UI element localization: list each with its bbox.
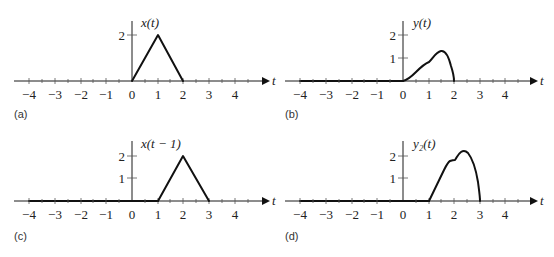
svg-text:3: 3 [477,207,484,222]
svg-text:−1: −1 [99,87,113,102]
svg-text:4: 4 [502,87,509,102]
t-axis-label: t [540,73,544,88]
panel-label: (d) [285,230,298,242]
y-tick-2: 2 [390,28,397,43]
svg-text:4: 4 [232,87,239,102]
svg-text:2: 2 [451,87,458,102]
arrow-icon [530,77,538,85]
svg-text:−3: −3 [319,87,333,102]
panel-label: (b) [285,108,298,120]
svg-text:2: 2 [180,207,187,222]
panel-label: (a) [14,108,27,120]
arrow-icon [262,77,270,85]
svg-text:4: 4 [232,207,239,222]
function-label: y(t) [411,15,431,30]
svg-text:3: 3 [206,207,213,222]
svg-text:0: 0 [400,207,407,222]
svg-text:0: 0 [400,87,407,102]
signal-x-shifted [158,156,209,201]
signal-y2 [429,151,480,201]
t-axis-label: t [272,193,276,208]
arrow-icon [530,197,538,205]
x-tick-labels: −4 −3 −2 −1 0 1 2 3 4 [293,207,509,222]
panel-b: t −4 −3 −2 −1 0 1 2 3 4 2 1 y(t [285,15,544,120]
svg-text:0: 0 [129,207,136,222]
svg-text:2: 2 [180,87,187,102]
panel-c: t −4 −3 −2 −1 0 1 2 3 4 2 1 x(t [14,136,276,242]
panel-d: t −4 −3 −2 −1 0 1 2 3 4 2 1 y₂( [285,136,544,242]
signal-y [403,51,454,81]
svg-text:3: 3 [477,87,484,102]
svg-text:1: 1 [426,207,433,222]
svg-text:−2: −2 [345,207,359,222]
figure-canvas: t −4 −3 −2 −1 0 1 2 3 4 2 x(t) (a) [0,0,554,257]
svg-text:2: 2 [451,207,458,222]
svg-text:−3: −3 [48,207,62,222]
svg-text:−4: −4 [293,87,307,102]
svg-text:−4: −4 [22,87,36,102]
t-axis-label: t [540,193,544,208]
svg-text:−2: −2 [345,87,359,102]
y-tick-2: 2 [390,149,397,164]
svg-text:0: 0 [129,87,136,102]
y-tick-1: 1 [390,171,397,186]
svg-text:1: 1 [155,207,162,222]
t-axis-label: t [272,73,276,88]
y-tick-1: 1 [390,51,397,66]
svg-text:1: 1 [155,87,162,102]
svg-text:−2: −2 [74,87,88,102]
svg-text:3: 3 [206,87,213,102]
arrow-icon [262,197,270,205]
svg-text:−1: −1 [370,87,384,102]
function-label: x(t) [140,15,159,30]
svg-text:−3: −3 [48,87,62,102]
svg-text:−4: −4 [22,207,36,222]
x-tick-labels: −4 −3 −2 −1 0 1 2 3 4 [22,87,239,102]
svg-text:−1: −1 [99,207,113,222]
svg-text:−4: −4 [293,207,307,222]
function-label: y₂(t) [411,136,436,151]
panel-label: (c) [14,230,27,242]
signal-x [132,35,183,81]
function-label: x(t − 1) [140,136,181,151]
svg-text:−3: −3 [319,207,333,222]
svg-text:1: 1 [426,87,433,102]
y-tick-2: 2 [119,149,126,164]
x-tick-labels: −4 −3 −2 −1 0 1 2 3 4 [293,87,509,102]
y-tick-1: 1 [119,171,126,186]
y-tick-2: 2 [119,28,126,43]
panel-a: t −4 −3 −2 −1 0 1 2 3 4 2 x(t) (a) [14,15,276,120]
x-tick-labels: −4 −3 −2 −1 0 1 2 3 4 [22,207,239,222]
svg-text:4: 4 [502,207,509,222]
svg-text:−2: −2 [74,207,88,222]
svg-text:−1: −1 [370,207,384,222]
